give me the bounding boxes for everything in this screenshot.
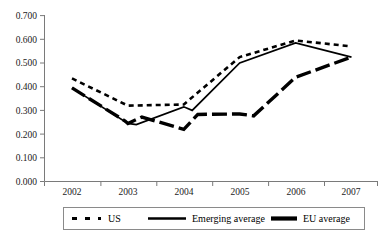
y-tick-label: 0.000 — [16, 177, 38, 187]
legend-label-us: US — [108, 213, 121, 224]
y-tick-label: 0.200 — [16, 130, 38, 140]
chart-canvas: 0.700 0.600 0.500 0.400 0.300 0.200 0.10… — [0, 0, 383, 238]
x-tick-label-2005: 2005 — [231, 187, 250, 197]
y-tick-label: 0.500 — [16, 58, 38, 68]
y-tick-label: 0.600 — [16, 35, 38, 45]
y-tick-label: 0.300 — [16, 106, 38, 116]
legend-label-eu-average: EU average — [303, 213, 350, 224]
y-tick-label: 0.100 — [16, 153, 38, 163]
x-tick-label-2003: 2003 — [119, 187, 138, 197]
chart-legend: US Emerging average EU average — [64, 208, 365, 230]
series-line-eu-average — [72, 57, 352, 129]
y-tick-marks — [40, 16, 45, 182]
y-tick-labels: 0.700 0.600 0.500 0.400 0.300 0.200 0.10… — [16, 11, 38, 187]
line-chart: 0.700 0.600 0.500 0.400 0.300 0.200 0.10… — [0, 0, 383, 238]
x-tick-labels: 2002 2003 2004 2005 2006 2007 — [63, 187, 361, 197]
x-tick-marks — [45, 182, 378, 187]
x-tick-label-2004: 2004 — [175, 187, 194, 197]
x-tick-label-2006: 2006 — [287, 187, 306, 197]
x-tick-label-2002: 2002 — [63, 187, 82, 197]
y-tick-label: 0.400 — [16, 82, 38, 92]
legend-label-emerging-average: Emerging average — [192, 213, 265, 224]
y-tick-label: 0.700 — [16, 11, 38, 21]
x-tick-label-2007: 2007 — [342, 187, 361, 197]
